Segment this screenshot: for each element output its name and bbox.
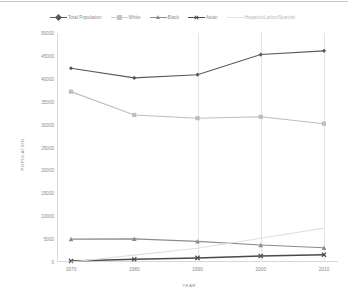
square-marker-icon [111, 14, 128, 21]
legend-label: Total Population [68, 15, 102, 20]
line-marker-icon [227, 14, 244, 21]
x-tick-label: 1970 [66, 267, 77, 272]
y-tick-label: 15000 [41, 191, 54, 196]
y-tick-label: 30000 [41, 122, 54, 127]
x-marker-icon [188, 14, 205, 21]
population-line-chart: Total Population White Black Asian [0, 0, 348, 307]
x-tick-label: 1980 [129, 267, 140, 272]
legend-label: Hispanic/Latino/Spanish [245, 15, 295, 20]
legend-label: Black [168, 15, 179, 20]
y-axis-title: POPULATION [20, 125, 25, 185]
y-tick-label: 45000 [41, 53, 54, 58]
diamond-marker-icon [50, 14, 67, 21]
y-tick-label: 0 [51, 260, 54, 265]
x-tick-label: 1990 [192, 267, 203, 272]
legend-label: Asian [206, 15, 218, 20]
y-tick-label: 5000 [44, 237, 54, 242]
series-layer [57, 33, 338, 262]
series-white [69, 90, 326, 126]
y-tick-label: 20000 [41, 168, 54, 173]
y-tick-label: 35000 [41, 99, 54, 104]
y-tick-label: 25000 [41, 145, 54, 150]
triangle-marker-icon [150, 14, 167, 21]
chart-legend: Total Population White Black Asian [50, 11, 342, 23]
legend-item-total-population[interactable]: Total Population [50, 14, 102, 21]
top-divider [0, 1, 348, 2]
x-tick-label: 2010 [319, 267, 330, 272]
legend-item-black[interactable]: Black [150, 14, 179, 21]
x-axis-title: YEAR [0, 283, 348, 288]
legend-label: White [129, 15, 141, 20]
y-tick-label: 50000 [41, 31, 54, 36]
series-hispanic-latino-spanish [71, 228, 324, 262]
legend-item-asian[interactable]: Asian [188, 14, 218, 21]
legend-item-white[interactable]: White [111, 14, 141, 21]
y-tick-label: 10000 [41, 214, 54, 219]
plot-area: 0500010000150002000025000300003500040000… [57, 33, 338, 262]
series-total-population [69, 49, 326, 80]
x-tick-label: 2000 [255, 267, 266, 272]
legend-item-hispanic-latino-spanish[interactable]: Hispanic/Latino/Spanish [227, 14, 295, 21]
y-tick-label: 40000 [41, 76, 54, 81]
